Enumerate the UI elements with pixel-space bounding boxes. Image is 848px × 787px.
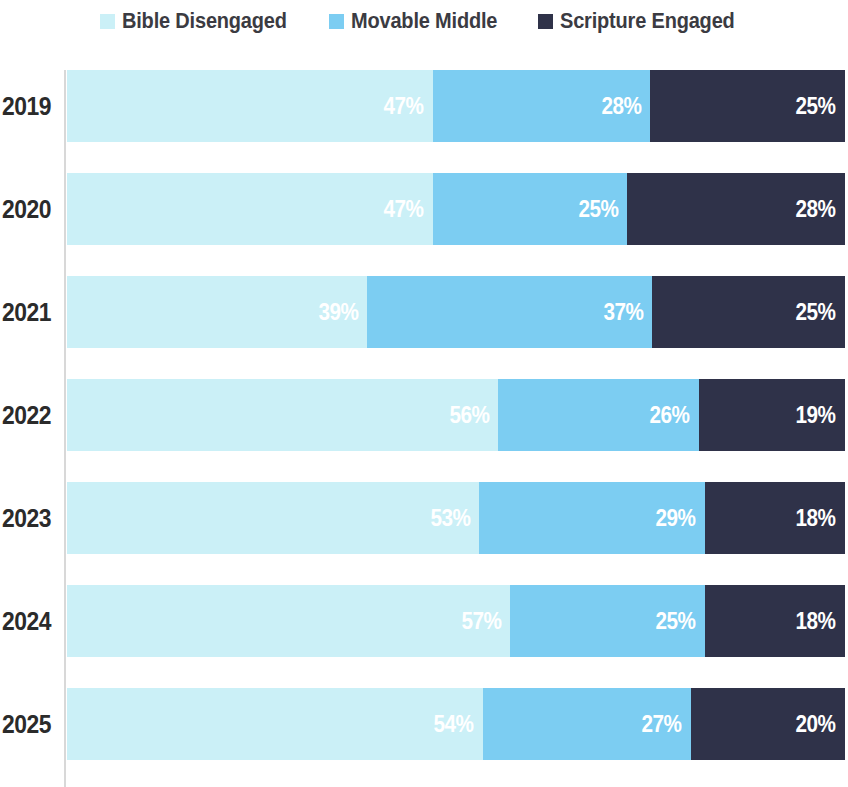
legend-swatch-scripture_engaged-icon [538, 14, 553, 29]
category-label-text: 2022 [2, 400, 51, 431]
bar-segment[interactable]: 27% [483, 688, 691, 760]
stacked-bar-2020: 47%25%28% [67, 173, 845, 245]
legend-label: Bible Disengaged [122, 9, 287, 34]
category-label-2023: 2023 [0, 482, 57, 554]
bar-segment-value: 56% [449, 404, 489, 427]
bar-segment-value: 57% [461, 610, 501, 633]
bar-segment[interactable]: 28% [433, 70, 651, 142]
bar-segment-value: 29% [656, 507, 696, 530]
legend-swatch-bible_disengaged-icon [100, 14, 115, 29]
category-label-2020: 2020 [0, 173, 57, 245]
bar-segment-value: 25% [578, 198, 618, 221]
bar-segment-value: 18% [796, 610, 836, 633]
bar-segment-value: 18% [796, 507, 836, 530]
bar-segment[interactable]: 29% [479, 482, 705, 554]
stacked-bar-2021: 39%37%25% [67, 276, 845, 348]
bar-segment[interactable]: 53% [67, 482, 479, 554]
legend-item-scripture_engaged[interactable]: Scripture Engaged [538, 9, 748, 34]
bar-segment[interactable]: 20% [691, 688, 845, 760]
bar-segment-value: 27% [642, 713, 682, 736]
legend-item-movable_middle[interactable]: Movable Middle [329, 9, 508, 34]
stacked-bar-2025: 54%27%20% [67, 688, 845, 760]
bar-segment[interactable]: 25% [650, 70, 845, 142]
category-label-2019: 2019 [0, 70, 57, 142]
category-label-text: 2025 [2, 709, 51, 740]
chart-legend: Bible DisengagedMovable MiddleScripture … [0, 0, 848, 42]
stacked-bar-2022: 56%26%19% [67, 379, 845, 451]
bar-row: 201947%28%25% [0, 70, 848, 142]
category-label-text: 2021 [2, 297, 51, 328]
bar-segment[interactable]: 39% [67, 276, 367, 348]
chart-plot-area: 201947%28%25%202047%25%28%202139%37%25%2… [0, 42, 848, 787]
bar-segment[interactable]: 19% [699, 379, 845, 451]
bar-segment-value: 25% [796, 95, 836, 118]
bar-segment[interactable]: 57% [67, 585, 510, 657]
bar-row: 202256%26%19% [0, 379, 848, 451]
legend-label: Movable Middle [351, 9, 497, 34]
bar-segment[interactable]: 37% [367, 276, 652, 348]
bar-row: 202353%29%18% [0, 482, 848, 554]
bar-segment[interactable]: 25% [433, 173, 628, 245]
bar-segment-value: 20% [796, 713, 836, 736]
bar-row: 202457%25%18% [0, 585, 848, 657]
bar-row: 202047%25%28% [0, 173, 848, 245]
bar-segment[interactable]: 25% [510, 585, 705, 657]
bar-segment-value: 39% [318, 301, 358, 324]
bar-segment-value: 25% [796, 301, 836, 324]
category-label-text: 2024 [2, 606, 51, 637]
category-label-2025: 2025 [0, 688, 57, 760]
bar-segment[interactable]: 18% [705, 585, 845, 657]
category-label-2021: 2021 [0, 276, 57, 348]
bar-segment-value: 47% [384, 198, 424, 221]
category-label-2024: 2024 [0, 585, 57, 657]
bar-segment[interactable]: 47% [67, 70, 433, 142]
bar-segment[interactable]: 25% [652, 276, 845, 348]
bar-segment[interactable]: 18% [705, 482, 845, 554]
legend-label: Scripture Engaged [560, 9, 735, 34]
bar-row: 202139%37%25% [0, 276, 848, 348]
stacked-bar-2024: 57%25%18% [67, 585, 845, 657]
bar-segment-value: 25% [656, 610, 696, 633]
bar-segment-value: 28% [601, 95, 641, 118]
category-label-text: 2019 [2, 91, 51, 122]
bar-segment-value: 54% [434, 713, 474, 736]
category-label-text: 2020 [2, 194, 51, 225]
category-label-text: 2023 [2, 503, 51, 534]
bar-segment-value: 19% [796, 404, 836, 427]
bar-segment-value: 37% [603, 301, 643, 324]
stacked-bar-2023: 53%29%18% [67, 482, 845, 554]
category-label-2022: 2022 [0, 379, 57, 451]
bar-segment-value: 53% [430, 507, 470, 530]
stacked-bar-2019: 47%28%25% [67, 70, 845, 142]
bar-segment-value: 28% [796, 198, 836, 221]
legend-item-bible_disengaged[interactable]: Bible Disengaged [100, 9, 299, 34]
bar-segment-value: 26% [650, 404, 690, 427]
legend-swatch-movable_middle-icon [329, 14, 344, 29]
bar-rows-container: 201947%28%25%202047%25%28%202139%37%25%2… [0, 42, 848, 787]
bar-segment[interactable]: 47% [67, 173, 433, 245]
bar-segment[interactable]: 56% [67, 379, 498, 451]
bar-segment[interactable]: 26% [498, 379, 698, 451]
bar-segment[interactable]: 54% [67, 688, 483, 760]
bar-row: 202554%27%20% [0, 688, 848, 760]
bar-segment-value: 47% [384, 95, 424, 118]
bar-segment[interactable]: 28% [627, 173, 845, 245]
